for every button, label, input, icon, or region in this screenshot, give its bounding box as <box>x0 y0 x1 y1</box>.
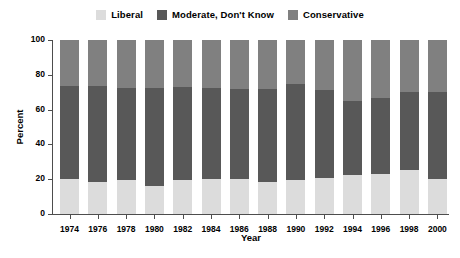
bar-1976 <box>88 40 107 214</box>
bar-segment <box>88 40 107 86</box>
bar-segment <box>117 88 136 180</box>
bar-segment <box>258 182 277 214</box>
bar-segment <box>315 178 334 214</box>
y-tick: 100 <box>48 40 53 41</box>
y-axis-title: Percent <box>12 40 28 214</box>
bar-segment <box>286 84 305 181</box>
bar-segment <box>117 40 136 88</box>
legend-entry: Liberal <box>96 10 143 20</box>
bar-segment <box>173 87 192 180</box>
bar-segment <box>286 180 305 214</box>
bar-segment <box>343 175 362 214</box>
bar-1986 <box>230 40 249 214</box>
bar-segment <box>230 40 249 89</box>
x-tick <box>353 214 354 219</box>
legend-swatch-moderate <box>157 10 167 20</box>
bar-segment <box>286 40 305 84</box>
x-tick <box>409 214 410 219</box>
x-tick <box>183 214 184 219</box>
stacked-bar-chart: LiberalModerate, Don't KnowConservative … <box>0 0 460 258</box>
legend-swatch-conservative <box>288 10 298 20</box>
y-tick: 80 <box>48 75 53 76</box>
bar-segment <box>145 88 164 186</box>
bar-1990 <box>286 40 305 214</box>
legend-entry: Conservative <box>288 10 364 20</box>
y-tick-label: 100 <box>31 34 45 45</box>
bar-segment <box>315 40 334 90</box>
bar-segment <box>145 40 164 88</box>
bar-segment <box>60 86 79 179</box>
bar-segment <box>428 92 447 179</box>
y-tick-label: 60 <box>36 104 45 115</box>
x-axis-line <box>52 214 449 215</box>
bar-segment <box>230 179 249 214</box>
bar-segment <box>173 40 192 87</box>
bar-segment <box>400 40 419 92</box>
bar-1984 <box>202 40 221 214</box>
x-tick <box>437 214 438 219</box>
y-tick-label: 0 <box>40 208 45 219</box>
legend-label: Moderate, Don't Know <box>172 10 274 20</box>
y-tick: 40 <box>48 144 53 145</box>
y-tick: 60 <box>48 110 53 111</box>
legend-entry: Moderate, Don't Know <box>157 10 274 20</box>
bar-segment <box>258 89 277 182</box>
bar-segment <box>400 170 419 214</box>
x-tick <box>211 214 212 219</box>
bar-segment <box>428 40 447 92</box>
y-axis-line <box>52 40 53 214</box>
bar-segment <box>371 98 390 174</box>
bar-segment <box>315 90 334 178</box>
bar-1992 <box>315 40 334 214</box>
bar-segment <box>371 174 390 214</box>
bar-segment <box>88 182 107 214</box>
bar-1980 <box>145 40 164 214</box>
y-tick-label: 80 <box>36 69 45 80</box>
bar-2000 <box>428 40 447 214</box>
bar-1974 <box>60 40 79 214</box>
x-tick <box>126 214 127 219</box>
bar-1978 <box>117 40 136 214</box>
bar-segment <box>202 88 221 179</box>
bar-segment <box>60 179 79 214</box>
legend-swatch-liberal <box>96 10 106 20</box>
bar-1982 <box>173 40 192 214</box>
bar-segment <box>371 40 390 98</box>
x-tick <box>98 214 99 219</box>
y-tick-label: 40 <box>36 138 45 149</box>
bar-segment <box>202 179 221 214</box>
legend-label: Conservative <box>303 10 364 20</box>
bar-segment <box>117 180 136 214</box>
bar-segment <box>230 89 249 179</box>
bar-segment <box>145 186 164 214</box>
bar-segment <box>202 40 221 88</box>
bar-segment <box>173 180 192 214</box>
x-tick <box>239 214 240 219</box>
y-tick: 0 <box>48 214 53 215</box>
x-tick <box>268 214 269 219</box>
y-tick-label: 20 <box>36 173 45 184</box>
bar-segment <box>343 40 362 101</box>
bar-1996 <box>371 40 390 214</box>
bar-segment <box>428 179 447 214</box>
legend-label: Liberal <box>111 10 143 20</box>
x-tick <box>154 214 155 219</box>
bar-segment <box>400 92 419 169</box>
x-tick <box>381 214 382 219</box>
x-tick <box>296 214 297 219</box>
chart-legend: LiberalModerate, Don't KnowConservative <box>0 10 460 20</box>
plot-area: 020406080100 197419761978198019821984198… <box>53 40 449 214</box>
bar-1988 <box>258 40 277 214</box>
bar-segment <box>258 40 277 89</box>
bar-segment <box>88 86 107 182</box>
bar-1994 <box>343 40 362 214</box>
bar-1998 <box>400 40 419 214</box>
x-tick <box>70 214 71 219</box>
bar-segment <box>60 40 79 86</box>
x-axis-title: Year <box>53 232 449 244</box>
bar-segment <box>343 101 362 175</box>
x-tick <box>324 214 325 219</box>
y-tick: 20 <box>48 179 53 180</box>
